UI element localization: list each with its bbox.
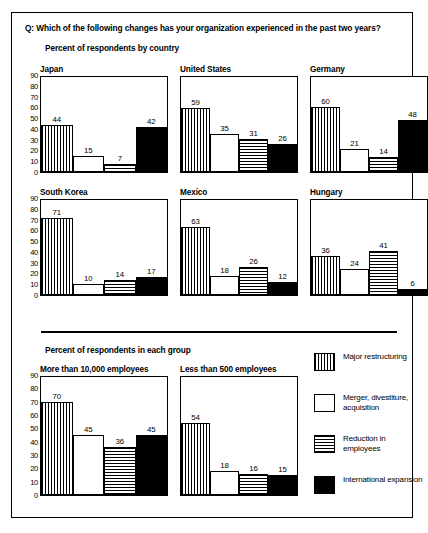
plot-area: 70453645 (40, 376, 168, 496)
bar-value-label: 18 (210, 267, 239, 275)
legend-swatch-hstripe (314, 435, 335, 453)
bar-plain[interactable] (210, 276, 239, 295)
bar-hstripe[interactable] (104, 164, 136, 172)
bar-slot: 26 (239, 200, 268, 295)
bar-hstripe[interactable] (369, 251, 398, 295)
bar-slot: 36 (311, 200, 340, 295)
bar-value-label: 45 (136, 426, 168, 434)
bar-hstripe[interactable] (239, 474, 268, 495)
legend-swatch-plain (314, 394, 335, 412)
bar-vstripe[interactable] (41, 218, 73, 295)
y-axis-tick: 80 (30, 386, 38, 394)
bar-value-label: 59 (181, 99, 210, 107)
bar-slot: 60 (311, 77, 340, 172)
bar-slot: 59 (181, 77, 210, 172)
panel-title: South Korea (40, 188, 88, 197)
bar-slot: 48 (398, 77, 427, 172)
bar-vstripe[interactable] (181, 423, 210, 495)
bar-hstripe[interactable] (239, 267, 268, 295)
bar-hstripe[interactable] (104, 447, 136, 495)
section-heading-by-country: Percent of respondents by country (45, 43, 179, 53)
bar-slot: 70 (41, 377, 73, 495)
bar-plain[interactable] (210, 471, 239, 495)
bar-vstripe[interactable] (41, 125, 73, 172)
legend-swatch-vstripe (314, 353, 335, 371)
y-axis-tick: 10 (30, 158, 38, 166)
y-axis-tick: 70 (30, 94, 38, 102)
panel-title: Less than 500 employees (180, 365, 276, 374)
bar-value-label: 54 (181, 414, 210, 422)
bar-slot: 15 (268, 377, 297, 495)
bar-plain[interactable] (340, 149, 369, 172)
bar-solid[interactable] (398, 289, 427, 295)
bar-slot: 12 (268, 200, 297, 295)
bar-hstripe[interactable] (369, 157, 398, 172)
chart-panel: More than 10,000 employees70453645908070… (40, 365, 168, 496)
plot-area: 54181615 (180, 376, 298, 496)
bar-slot: 45 (136, 377, 168, 495)
bar-series: 3624416 (311, 200, 427, 295)
bar-vstripe[interactable] (311, 107, 340, 172)
bar-series: 4415742 (41, 77, 167, 172)
legend-item[interactable]: Merger, divestiture, acquisition (314, 394, 422, 435)
y-axis-tick: 20 (30, 148, 38, 156)
bar-solid[interactable] (268, 475, 297, 495)
bar-value-label: 70 (41, 393, 73, 401)
bar-value-label: 35 (210, 125, 239, 133)
bar-slot: 63 (181, 200, 210, 295)
bar-vstripe[interactable] (41, 402, 73, 495)
bar-vstripe[interactable] (181, 108, 210, 172)
bar-solid[interactable] (268, 144, 297, 172)
y-axis-tick: 90 (30, 195, 38, 203)
bar-solid[interactable] (136, 277, 168, 295)
bar-slot: 6 (398, 200, 427, 295)
y-axis: 9080706050403020100 (19, 199, 39, 296)
legend-item[interactable]: Major restructuring (314, 353, 422, 394)
y-axis-tick: 90 (30, 72, 38, 80)
bar-value-label: 12 (268, 273, 297, 281)
panel-title: Mexico (180, 188, 207, 197)
plot-area: 63182612 (180, 199, 298, 296)
bar-value-label: 44 (41, 116, 73, 124)
panel-title: United States (180, 65, 231, 74)
legend-item[interactable]: Reduction in employees (314, 435, 422, 476)
bar-slot: 42 (136, 77, 168, 172)
bar-value-label: 36 (311, 247, 340, 255)
bar-plain[interactable] (210, 134, 239, 172)
bar-value-label: 42 (136, 118, 168, 126)
bar-value-label: 71 (41, 209, 73, 217)
bar-plain[interactable] (73, 284, 105, 295)
y-axis-tick: 70 (30, 399, 38, 407)
bar-hstripe[interactable] (239, 139, 268, 172)
bar-vstripe[interactable] (311, 256, 340, 295)
bar-series: 71101417 (41, 200, 167, 295)
bar-plain[interactable] (340, 269, 369, 295)
y-axis-tick: 20 (30, 466, 38, 474)
bar-slot: 7 (104, 77, 136, 172)
bar-slot: 18 (210, 200, 239, 295)
question-title: Q: Which of the following changes has yo… (25, 23, 401, 34)
bar-series: 63182612 (181, 200, 297, 295)
bar-solid[interactable] (136, 127, 168, 172)
bar-plain[interactable] (73, 435, 105, 495)
bar-value-label: 60 (311, 98, 340, 106)
y-axis: 9080706050403020100 (19, 376, 39, 496)
bar-slot: 18 (210, 377, 239, 495)
y-axis-tick: 10 (30, 479, 38, 487)
bar-value-label: 7 (104, 155, 136, 163)
bar-slot: 54 (181, 377, 210, 495)
y-axis-tick: 50 (30, 238, 38, 246)
bar-value-label: 48 (398, 111, 427, 119)
bar-vstripe[interactable] (181, 227, 210, 295)
bar-value-label: 26 (239, 258, 268, 266)
bar-hstripe[interactable] (104, 280, 136, 295)
y-axis-tick: 80 (30, 83, 38, 91)
bar-solid[interactable] (136, 435, 168, 495)
bar-slot: 41 (369, 200, 398, 295)
bar-solid[interactable] (398, 120, 427, 172)
y-axis: 9080706050403020100 (19, 76, 39, 173)
legend-item[interactable]: International expansion (314, 476, 422, 517)
bar-value-label: 14 (369, 148, 398, 156)
bar-solid[interactable] (268, 282, 297, 295)
bar-plain[interactable] (73, 156, 105, 172)
